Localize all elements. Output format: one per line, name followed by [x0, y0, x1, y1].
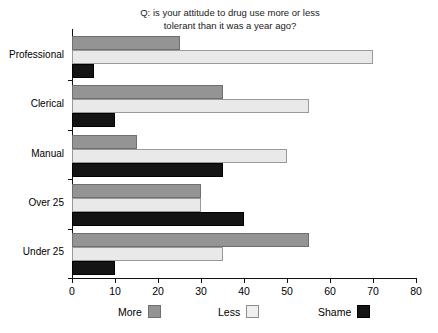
- x-axis-tick-label: 40: [229, 285, 259, 297]
- x-axis-tick: [72, 279, 73, 283]
- bar-less: [72, 198, 201, 212]
- bar-shame: [72, 163, 223, 177]
- bar-shame: [72, 64, 94, 78]
- legend-label: Shame: [318, 306, 351, 318]
- bar-more: [72, 36, 180, 50]
- legend-swatch-more: [148, 305, 161, 318]
- x-axis-tick-label: 60: [315, 285, 345, 297]
- legend-label: Less: [218, 306, 240, 318]
- x-axis-tick: [115, 279, 116, 283]
- x-axis-tick: [373, 279, 374, 283]
- x-axis-tick-label: 0: [57, 285, 87, 297]
- bar-group: [72, 184, 416, 226]
- bar-less: [72, 50, 373, 64]
- x-axis-tick: [158, 279, 159, 283]
- bar-chart: Q: is your attitude to drug use more or …: [0, 0, 438, 333]
- bar-shame: [72, 113, 115, 127]
- bar-shame: [72, 261, 115, 275]
- legend-item-more[interactable]: More: [118, 305, 161, 318]
- category-label: Professional: [0, 49, 64, 60]
- y-axis-tick: [68, 229, 73, 230]
- bar-more: [72, 85, 223, 99]
- x-axis-tick: [330, 279, 331, 283]
- chart-title: Q: is your attitude to drug use more or …: [90, 6, 370, 32]
- legend-item-less[interactable]: Less: [218, 305, 259, 318]
- x-axis-tick-label: 50: [272, 285, 302, 297]
- bar-more: [72, 233, 309, 247]
- x-axis-tick-label: 10: [100, 285, 130, 297]
- category-label: Manual: [0, 148, 64, 159]
- legend-label: More: [118, 306, 142, 318]
- y-axis-tick: [68, 130, 73, 131]
- bar-group: [72, 233, 416, 275]
- category-label: Under 25: [0, 246, 64, 257]
- legend-swatch-shame: [357, 305, 370, 318]
- bar-less: [72, 149, 287, 163]
- chart-legend: MoreLessShame: [0, 305, 438, 325]
- x-axis-tick-label: 80: [401, 285, 431, 297]
- y-axis-tick: [68, 80, 73, 81]
- bar-shame: [72, 212, 244, 226]
- legend-item-shame[interactable]: Shame: [318, 305, 370, 318]
- bar-more: [72, 184, 201, 198]
- y-axis-tick: [68, 179, 73, 180]
- bar-less: [72, 99, 309, 113]
- bar-group: [72, 85, 416, 127]
- x-axis-tick-label: 70: [358, 285, 388, 297]
- bar-more: [72, 135, 137, 149]
- plot-area: [72, 31, 416, 278]
- x-axis-tick: [201, 279, 202, 283]
- legend-swatch-less: [246, 305, 259, 318]
- category-label: Over 25: [0, 197, 64, 208]
- category-label: Clerical: [0, 98, 64, 109]
- bar-less: [72, 247, 223, 261]
- x-axis-tick-label: 20: [143, 285, 173, 297]
- x-axis-tick: [416, 279, 417, 283]
- x-axis-tick-label: 30: [186, 285, 216, 297]
- x-axis-tick: [244, 279, 245, 283]
- bar-group: [72, 135, 416, 177]
- bar-group: [72, 36, 416, 78]
- x-axis-tick: [287, 279, 288, 283]
